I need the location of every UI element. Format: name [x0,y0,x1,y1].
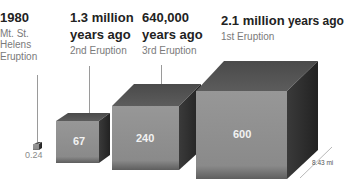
cube-0-24 [33,142,42,150]
value-600: 600 [233,128,251,140]
cube-chart: 0.24 67 240 600 8.43 mi [0,0,344,188]
cube-600 [196,61,318,179]
value-67: 67 [73,135,85,147]
value-0-24: 0.24 [25,150,43,160]
cube-240 [112,84,201,170]
value-240: 240 [136,132,154,144]
dimension-label: 8.43 mi [312,159,333,166]
